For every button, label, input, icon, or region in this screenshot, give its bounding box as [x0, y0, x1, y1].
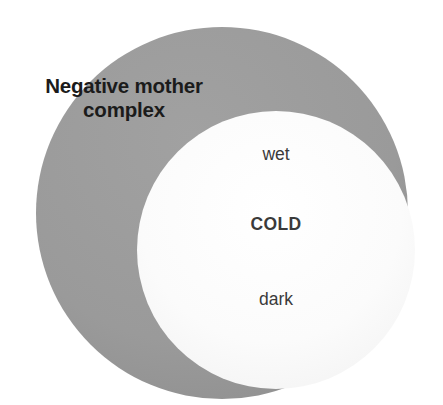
venn-diagram: Negative mother complex wet COLD dark	[0, 0, 443, 405]
label-layer: Negative mother complex wet COLD dark	[0, 0, 443, 405]
outer-circle-label: Negative mother complex	[6, 74, 242, 122]
inner-circle-label-dark: dark	[176, 289, 376, 310]
outer-circle-label-line-2: complex	[6, 98, 242, 122]
inner-circle-label-cold: COLD	[176, 214, 376, 235]
inner-circle-label-wet: wet	[176, 144, 376, 165]
outer-circle-label-line-1: Negative mother	[45, 74, 203, 97]
